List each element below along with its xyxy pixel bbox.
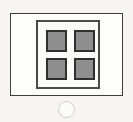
device-panel-icon <box>0 0 133 122</box>
key-grid <box>38 22 98 87</box>
button-frame <box>36 20 100 89</box>
key-bottom-left[interactable] <box>46 58 67 80</box>
key-top-right[interactable] <box>74 30 95 52</box>
key-bottom-right[interactable] <box>74 58 95 80</box>
round-button[interactable] <box>58 101 75 118</box>
key-top-left[interactable] <box>46 30 67 52</box>
device-faceplate <box>10 13 123 96</box>
